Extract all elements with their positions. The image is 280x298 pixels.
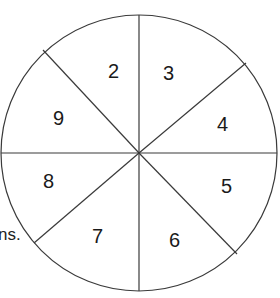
clipped-caption-text: ns. — [0, 225, 21, 245]
section-label-7: 7 — [92, 225, 103, 247]
section-label-8: 8 — [43, 170, 54, 192]
section-label-4: 4 — [217, 113, 228, 135]
section-label-6: 6 — [169, 229, 180, 251]
spinner-diagram: 2 3 4 5 6 7 8 9 — [0, 0, 280, 298]
section-label-3: 3 — [163, 62, 174, 84]
section-label-5: 5 — [221, 175, 232, 197]
section-label-9: 9 — [53, 107, 64, 129]
section-label-2: 2 — [108, 60, 119, 82]
